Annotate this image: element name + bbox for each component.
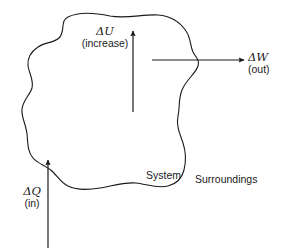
work-symbol: ΔW <box>248 51 284 63</box>
heat-label: ΔQ (in) <box>10 185 54 210</box>
work-qualifier: (out) <box>248 64 284 75</box>
work-label: ΔW (out) <box>248 51 284 76</box>
heat-qualifier: (in) <box>10 198 54 209</box>
surroundings-label: Surroundings <box>195 174 257 185</box>
system-label: System <box>146 170 181 181</box>
heat-symbol: ΔQ <box>10 185 54 197</box>
figure-canvas <box>0 0 285 248</box>
internal-energy-label: ΔU (increase) <box>74 25 136 50</box>
internal-energy-symbol: ΔU <box>74 25 136 37</box>
internal-energy-qualifier: (increase) <box>74 38 136 49</box>
thermodynamics-figure: ΔU (increase) ΔW (out) ΔQ (in) System Su… <box>0 0 285 248</box>
